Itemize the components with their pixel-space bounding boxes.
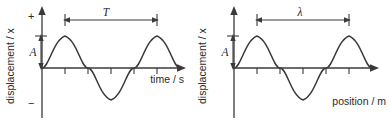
positive-sign-label: + [28, 10, 34, 22]
x-axis-ticks [257, 68, 349, 74]
wavelength-annotation: λ [255, 6, 351, 26]
displacement-position-graph: displacement / x [196, 6, 386, 118]
period-annotation: T [63, 6, 159, 26]
period-arrowhead-left [63, 17, 70, 23]
amplitude-arrowhead-top [38, 34, 43, 41]
y-axis-label: displacement / x [4, 27, 16, 104]
negative-sign-label: − [28, 97, 34, 109]
y-axis-arrowhead [38, 6, 45, 15]
amplitude-arrowhead-bottom [38, 63, 43, 70]
amplitude-arrowhead-top [230, 34, 235, 41]
wavelength-arrowhead-left [255, 17, 262, 23]
x-axis-label: position / m [332, 95, 386, 107]
wavelength-arrowhead-right [344, 17, 351, 23]
wavelength-label: λ [297, 6, 303, 18]
x-axis-ticks [65, 68, 157, 74]
period-arrowhead-right [152, 17, 159, 23]
amplitude-label: A [28, 46, 37, 58]
amplitude-arrowhead-bottom [230, 63, 235, 70]
y-axis-label: displacement / x [196, 27, 208, 104]
x-axis-label: time / s [150, 73, 184, 85]
wave-graphs-figure: displacement / x + − [0, 0, 391, 124]
displacement-time-graph: displacement / x + − [4, 6, 186, 118]
amplitude-label: A [220, 46, 229, 58]
period-label: T [103, 6, 111, 18]
amplitude-annotation: A [220, 34, 239, 70]
wave-graphs-svg: displacement / x + − [0, 0, 391, 124]
y-axis-arrowhead [230, 6, 237, 15]
amplitude-annotation: A [28, 34, 47, 70]
